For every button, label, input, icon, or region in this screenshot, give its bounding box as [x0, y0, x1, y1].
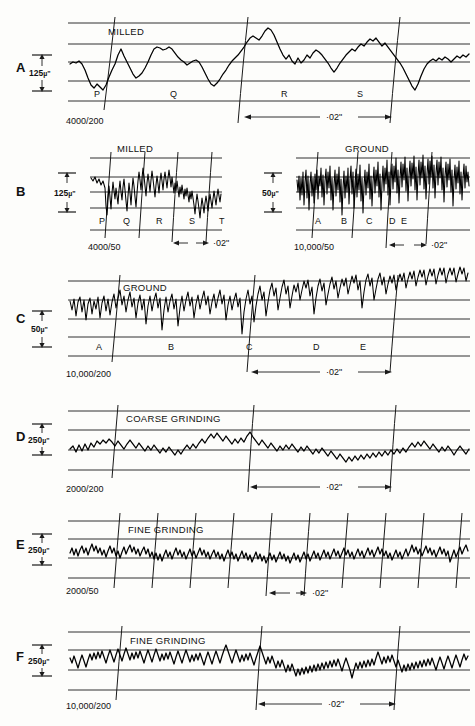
zone-label: B: [341, 216, 347, 226]
zone-label: P: [99, 216, 105, 226]
span-dimension: ·02": [251, 367, 392, 377]
panel-f: F 250µ" FINE GRINDING: [16, 626, 470, 711]
panel-b-subplot-milled: 125µ" MILLED P Q R S T 4000/50 ·02": [54, 143, 229, 252]
panel-d: D 250µ" COARSE GRINDING: [16, 405, 470, 494]
span-label: ·02": [213, 238, 229, 248]
scale-marker: 50µ": [262, 172, 282, 213]
panel-a: A 125µ": [16, 17, 470, 126]
profile-trace: [70, 432, 469, 462]
span-dimension: ·02": [250, 482, 392, 492]
zone-dividers: [105, 152, 212, 242]
scale-marker: 250µ": [28, 533, 52, 566]
magnification-label: 2000/200: [66, 484, 104, 494]
panel-title: GROUND: [123, 282, 167, 293]
zone-label: T: [219, 216, 225, 226]
zone-label: S: [189, 216, 195, 226]
magnification-label: 10,000/200: [66, 369, 111, 379]
panel-e: E: [16, 513, 470, 598]
zone-label: R: [281, 89, 288, 99]
scale-marker: 250µ": [28, 423, 52, 456]
span-dimension: ·02": [269, 588, 328, 598]
span-label: ·02": [328, 699, 344, 709]
panel-title: FINE GRINDING: [130, 635, 206, 646]
panel-letter: C: [16, 311, 26, 326]
scale-value: 250µ": [28, 435, 50, 445]
zone-label: P: [94, 89, 100, 99]
span-label: ·02": [326, 112, 342, 122]
zone-label: B: [168, 342, 174, 352]
zone-label: C: [366, 216, 373, 226]
magnification-label: 10,000/50: [294, 242, 334, 252]
zone-label: D: [313, 342, 320, 352]
panel-title: FINE GRINDING: [128, 524, 204, 535]
profile-trace: [297, 155, 469, 215]
zone-label: R: [156, 216, 163, 226]
zone-labels: P Q R S: [94, 89, 363, 99]
profile-trace: [70, 267, 468, 334]
panel-letter: A: [16, 60, 26, 75]
span-label: ·02": [312, 588, 328, 598]
panel-c: C 50µ" GROUND: [16, 267, 470, 379]
zone-label: C: [246, 342, 253, 352]
panel-letter: F: [16, 649, 24, 664]
panel-title: GROUND: [345, 143, 389, 154]
span-dimension: ·02": [389, 240, 447, 250]
magnification-label: 10,000/200: [66, 701, 111, 711]
scale-marker: 125µ": [54, 172, 76, 213]
span-dimension: ·02": [258, 699, 396, 709]
scale-marker: 50µ": [31, 310, 52, 348]
scale-value: 250µ": [28, 545, 50, 555]
scale-value: 50µ": [31, 324, 48, 334]
panel-b: B: [16, 143, 470, 252]
panel-letter: D: [16, 429, 25, 444]
span-label: ·02": [326, 482, 342, 492]
zone-label: E: [360, 342, 366, 352]
panel-title: MILLED: [117, 143, 153, 154]
zone-labels: P Q R S T: [99, 216, 225, 226]
surface-roughness-figure: A 125µ": [0, 0, 475, 726]
span-label: ·02": [431, 240, 447, 250]
magnification-label: 2000/50: [66, 586, 99, 596]
magnification-label: 4000/200: [66, 116, 104, 126]
scale-value: 50µ": [262, 188, 279, 198]
zone-label: D: [389, 216, 396, 226]
zone-dividers: [104, 17, 400, 123]
profile-trace: [91, 168, 221, 218]
figure-canvas: A 125µ": [0, 0, 475, 726]
zone-label: E: [401, 216, 407, 226]
scale-value: 250µ": [28, 656, 50, 666]
zone-label: Q: [123, 216, 130, 226]
panel-letter: B: [16, 184, 25, 199]
zone-labels: A B C D E: [96, 342, 366, 352]
panel-title: COARSE GRINDING: [126, 413, 221, 424]
panel-letter: E: [16, 537, 25, 552]
scale-value: 125µ": [29, 68, 51, 78]
panel-b-subplot-ground: 50µ" GROUND A B C D E 10,000/50 ·02: [262, 143, 470, 252]
zone-label: S: [357, 89, 363, 99]
zone-label: A: [315, 216, 321, 226]
zone-labels: A B C D E: [315, 216, 407, 226]
span-label: ·02": [326, 367, 342, 377]
magnification-label: 4000/50: [88, 242, 121, 252]
zone-label: A: [96, 342, 102, 352]
scale-marker: 125µ": [29, 54, 52, 92]
scale-value: 125µ": [54, 188, 76, 198]
zone-label: Q: [170, 89, 177, 99]
span-dimension: ·02": [173, 238, 229, 248]
panel-title: MILLED: [108, 26, 144, 37]
scale-marker: 250µ": [28, 644, 52, 677]
span-dimension: ·02": [244, 112, 392, 122]
